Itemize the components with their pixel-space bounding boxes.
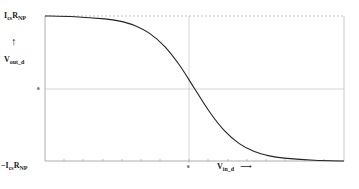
y-bottom-label: −IcsRNP [1,162,27,171]
transfer-curve [45,16,344,161]
y-arrow-icon: ↑ [11,36,17,47]
y-axis-title: Vout_d [4,56,24,65]
x-arrow-icon: ⟶ [240,162,251,171]
x-axis-title: Vin_d ⟶ [217,163,252,172]
chart-canvas [0,0,359,189]
y-top-label: IcsRNP [4,12,26,21]
x-zero-label: 0 [187,164,190,169]
y-zero-label: 0 [37,86,40,91]
